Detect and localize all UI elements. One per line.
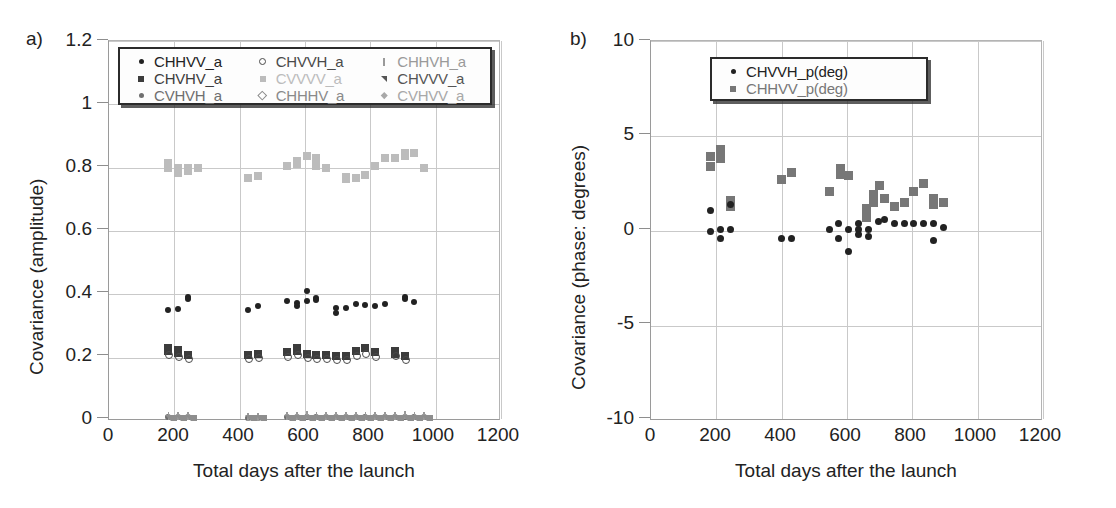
marker-dot-icon (139, 93, 144, 98)
legend-item[interactable]: CVHVV_a (371, 87, 482, 104)
legend-item[interactable]: CVVVV_a (250, 70, 372, 87)
data-point (881, 216, 888, 223)
data-point (371, 162, 379, 170)
panel-b-xtick-6: 1200 (1010, 424, 1070, 446)
marker-bar-icon (383, 58, 385, 66)
data-point (865, 226, 872, 233)
data-point (343, 356, 351, 364)
panel-a-ytick-1: 0.2 (40, 344, 108, 366)
data-point (322, 164, 330, 172)
panel-a-legend: CHHVV_aCHVHV_aCVHVH_aCHVVH_aCVVVV_aCHHHV… (118, 47, 492, 105)
data-point (372, 353, 380, 361)
legend-marker (128, 76, 154, 82)
marker-dot-icon (139, 59, 144, 64)
data-point (294, 303, 300, 309)
data-point (411, 299, 417, 305)
panel-a-xlabel: Total days after the launch (128, 460, 480, 482)
legend-item-label: CHHVV_p(deg) (746, 80, 848, 97)
gridline-vertical (501, 41, 502, 419)
data-point (255, 354, 263, 362)
legend-item[interactable]: CVHVH_a (128, 87, 250, 104)
data-point (313, 355, 321, 363)
legend-item-label: CHVHV_a (154, 70, 222, 87)
data-point (255, 303, 261, 309)
legend-item[interactable]: CHVVH_p(deg) (720, 63, 918, 80)
marker-triangle-icon (381, 76, 387, 82)
legend-item[interactable]: CHHVV_a (128, 53, 250, 70)
legend-marker (250, 58, 276, 65)
panel-b-xtick-0: 0 (620, 424, 680, 446)
panel-a-xtick-3: 600 (273, 424, 333, 446)
data-point (826, 226, 833, 233)
data-point (304, 298, 310, 304)
panel-a-ytick-3: 0.6 (40, 218, 108, 240)
legend-marker (128, 59, 154, 64)
gridline-horizontal (109, 294, 499, 295)
panel-a-ytick-2: 0.4 (40, 281, 108, 303)
gridline-vertical (978, 41, 979, 419)
data-point (706, 162, 715, 171)
data-point (372, 303, 378, 309)
data-point (707, 207, 714, 214)
legend-marker (371, 93, 397, 98)
data-point (930, 237, 937, 244)
legend-item-label: CHVVH_p(deg) (746, 63, 848, 80)
data-point (382, 301, 388, 307)
legend-item[interactable]: CHHVV_p(deg) (720, 80, 918, 97)
legend-item[interactable]: CHVVH_a (250, 53, 372, 70)
data-point (891, 220, 898, 227)
data-point (401, 152, 409, 160)
data-point (323, 355, 331, 363)
legend-item[interactable]: CHVVV_a (371, 70, 482, 87)
panel-a-xtick-5: 1000 (403, 424, 463, 446)
data-point (875, 181, 884, 190)
data-point (283, 162, 291, 170)
data-point (165, 307, 171, 313)
panel-b-xtick-3: 600 (815, 424, 875, 446)
data-point (900, 198, 909, 207)
panel-b-xtick-2: 400 (750, 424, 810, 446)
data-point (707, 228, 714, 235)
data-point (844, 171, 853, 180)
data-point (304, 288, 310, 294)
data-point (890, 202, 899, 211)
data-point (175, 306, 181, 312)
panel-a: a) Covariance (amplitude) 1.2 1 0.8 0.6 … (0, 0, 558, 508)
legend-item[interactable]: CHHVH_a (371, 53, 482, 70)
data-point (245, 307, 251, 313)
legend-item[interactable]: CHHHV_a (250, 87, 372, 104)
data-point (880, 194, 889, 203)
marker-diamond-icon (381, 92, 387, 98)
data-point (835, 220, 842, 227)
panel-b-ytick-4: 10 (584, 29, 650, 51)
data-point (313, 297, 319, 303)
panel-b-ylabel: Covariance (phase: degrees) (568, 145, 590, 390)
legend-item[interactable]: CHVHV_a (128, 70, 250, 87)
data-point (930, 220, 937, 227)
data-point (303, 152, 311, 160)
legend-item-label: CHHVV_a (154, 53, 222, 70)
figure-root: a) Covariance (amplitude) 1.2 1 0.8 0.6 … (0, 0, 1116, 508)
data-point (410, 149, 418, 157)
legend-marker (720, 86, 746, 92)
panel-b-ytick-2: 0 (584, 218, 650, 240)
gridline-horizontal (651, 326, 1041, 327)
data-point (245, 355, 253, 363)
data-point (352, 174, 360, 182)
panel-b-xtick-5: 1000 (945, 424, 1005, 446)
data-point (727, 226, 734, 233)
data-point (402, 296, 408, 302)
data-point (910, 220, 917, 227)
data-point (825, 187, 834, 196)
data-point (716, 145, 725, 154)
data-point (185, 355, 193, 363)
data-point (717, 235, 724, 242)
panel-b-ytick-3: 5 (584, 123, 650, 145)
legend-column: CHHVH_aCHVVV_aCVHVV_a (371, 53, 482, 104)
data-point (402, 356, 410, 364)
data-point (865, 233, 872, 240)
panel-b-ytick-1: -5 (584, 312, 650, 334)
panel-a-xtick-0: 0 (78, 424, 138, 446)
data-point (361, 171, 369, 179)
legend-marker (371, 76, 397, 82)
